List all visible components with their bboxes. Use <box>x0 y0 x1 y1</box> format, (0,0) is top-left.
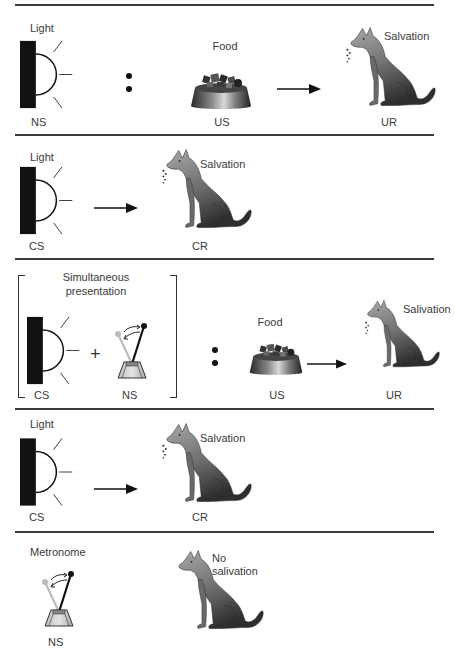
plus-sign: + <box>90 345 101 363</box>
food-label: Food <box>212 40 237 53</box>
bracket-title-line1: Simultaneous <box>63 271 130 284</box>
response-label: Salivation <box>403 303 451 316</box>
stimulus-label: Light <box>30 151 54 164</box>
response-role: CR <box>192 511 208 524</box>
lamp-icon <box>20 166 76 235</box>
divider-4 <box>15 531 434 533</box>
metronome-icon <box>39 566 79 630</box>
food-role: US <box>269 389 284 402</box>
food-bowl-icon <box>248 342 304 378</box>
divider-top <box>15 4 434 6</box>
stimulus-label: Light <box>30 22 54 35</box>
response-role: UR <box>386 389 402 402</box>
response-label: Salvation <box>200 158 245 171</box>
food-role: US <box>214 116 229 129</box>
lamp-icon <box>20 438 76 506</box>
metronome-icon <box>112 318 152 382</box>
stimulus-role: NS <box>31 116 46 129</box>
stimulus-role: CS <box>29 240 44 253</box>
drool-icon <box>161 443 169 463</box>
arrow-icon <box>277 84 321 94</box>
stimulus-label: Light <box>30 418 54 431</box>
bracket-title-line2: presentation <box>66 285 127 298</box>
arrow-icon <box>94 484 138 494</box>
response-label: Salvation <box>200 432 245 445</box>
metronome-role: NS <box>122 389 137 402</box>
response-line1: No <box>212 552 226 565</box>
stimulus-role: CS <box>29 511 44 524</box>
arrow-icon <box>94 203 138 213</box>
response-label: Salvation <box>384 30 429 43</box>
lamp-icon <box>27 313 83 388</box>
stimulus-role: NS <box>48 636 63 649</box>
arrow-icon <box>307 359 347 369</box>
divider-1 <box>15 134 434 136</box>
drool-icon <box>345 47 353 67</box>
divider-3 <box>15 408 434 410</box>
response-role: CR <box>192 240 208 253</box>
food-bowl-icon <box>189 72 253 112</box>
response-line2: salivation <box>212 565 258 578</box>
stimulus-label: Metronome <box>30 546 86 559</box>
response-role: UR <box>381 116 397 129</box>
food-label: Food <box>257 316 282 329</box>
divider-2 <box>15 258 434 260</box>
lamp-icon <box>20 39 76 110</box>
drool-icon <box>364 320 371 338</box>
stimulus-role: CS <box>34 389 49 402</box>
drool-icon <box>161 168 169 188</box>
